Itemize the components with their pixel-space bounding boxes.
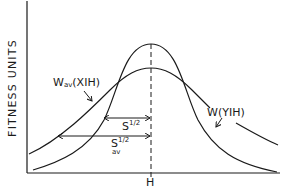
- sav-half-label: S1/2 av: [111, 137, 129, 149]
- w-leader-arrow: [216, 118, 222, 127]
- wav-label-main: W: [53, 76, 64, 89]
- curve-label-w-yih: W(YIH): [207, 107, 245, 118]
- sav-half-sup: 1/2: [118, 136, 129, 144]
- y-axis-label: FITNESS UNITS: [0, 0, 24, 195]
- curve-wav-xih-tail: [236, 123, 278, 145]
- fitness-diagram: [0, 0, 283, 195]
- x-tick-label-h: H: [146, 177, 154, 188]
- wav-leader-arrow: [84, 91, 92, 101]
- curve-label-wav-xih: Wav(XIH): [53, 77, 100, 89]
- s-half-sup: 1/2: [129, 119, 140, 127]
- s-half-label: S1/2: [122, 120, 140, 132]
- w-label-main: W: [207, 106, 218, 119]
- w-label-args: (YIH): [218, 106, 245, 119]
- y-axis-label-text: FITNESS UNITS: [7, 39, 18, 137]
- sav-half-sub: av: [112, 149, 120, 156]
- wav-label-args: (XIH): [72, 76, 100, 89]
- s-half-base: S: [122, 120, 129, 133]
